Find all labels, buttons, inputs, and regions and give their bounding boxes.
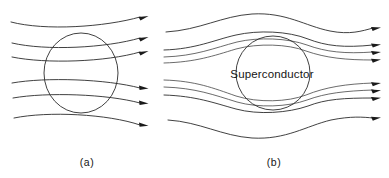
- arrowhead-icon: [371, 97, 381, 101]
- arrowhead-icon: [139, 122, 149, 126]
- field-line: [164, 87, 373, 106]
- field-line: [11, 17, 140, 27]
- field-line: [12, 52, 140, 61]
- field-line: [13, 95, 140, 103]
- panel-b-arrowheads: [371, 27, 381, 121]
- arrowhead-icon: [371, 51, 381, 55]
- panel-a-group: [11, 16, 149, 127]
- arrowhead-icon: [139, 86, 149, 90]
- arrowhead-icon: [139, 101, 149, 105]
- arrowhead-icon: [371, 89, 381, 93]
- field-line: [164, 45, 373, 63]
- arrowhead-icon: [371, 27, 381, 31]
- arrowhead-icon: [371, 117, 381, 121]
- arrowhead-icon: [371, 59, 381, 63]
- arrowhead-icon: [371, 82, 381, 86]
- normal-body-outline: [44, 33, 118, 113]
- panel-b-caption: (b): [267, 156, 282, 168]
- superconductor-label: Superconductor: [230, 68, 313, 80]
- field-line: [168, 117, 373, 138]
- field-line: [164, 32, 373, 50]
- field-line: [12, 38, 140, 48]
- field-line: [14, 114, 140, 125]
- arrowhead-icon: [371, 44, 381, 48]
- panel-b-field-lines-lower: [164, 80, 373, 113]
- field-line-diagram: Superconductor (a) (b): [0, 0, 389, 178]
- figure-container: Superconductor (a) (b): [0, 0, 389, 178]
- field-line: [12, 80, 140, 88]
- panel-b-group: Superconductor: [164, 14, 381, 138]
- field-line: [164, 39, 373, 57]
- field-line: [166, 14, 373, 33]
- panel-a-caption: (a): [80, 156, 95, 168]
- panel-a-arrowheads: [139, 16, 149, 127]
